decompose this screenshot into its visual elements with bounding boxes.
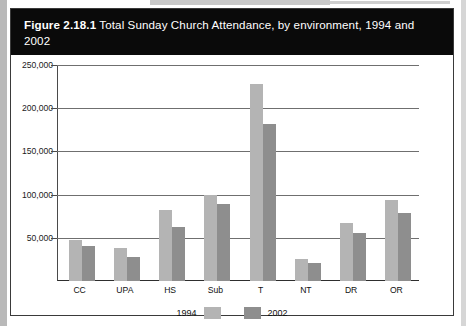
bar-group-upa xyxy=(110,65,140,281)
bar-t-1994 xyxy=(250,84,263,281)
bar-dr-2002 xyxy=(353,233,366,281)
bar-group-cc xyxy=(65,65,95,281)
bar-upa-1994 xyxy=(114,248,127,281)
scan-artifact-top xyxy=(150,0,330,5)
bar-upa-2002 xyxy=(127,257,140,281)
chart-panel: 50,000100,000150,000200,000250,000 CCUPA… xyxy=(11,55,453,315)
x-tick-label-sub: Sub xyxy=(208,285,223,295)
x-tick-label-t: T xyxy=(258,285,263,295)
bar-series-container xyxy=(57,65,419,281)
y-tick-label-200000: 200,000 xyxy=(22,103,53,113)
figure-title-band: Figure 2.18.1 Total Sunday Church Attend… xyxy=(11,9,453,55)
scanned-page: Figure 2.18.1 Total Sunday Church Attend… xyxy=(0,0,466,326)
y-tick-label-100000: 100,000 xyxy=(22,190,53,200)
plot-area xyxy=(57,65,419,281)
bar-group-dr xyxy=(336,65,366,281)
legend-swatch-2002 xyxy=(244,307,261,319)
bar-cc-1994 xyxy=(69,240,82,281)
bar-cc-2002 xyxy=(82,246,95,281)
bar-group-t xyxy=(246,65,276,281)
scan-artifact-top-secondary xyxy=(330,1,450,4)
figure-title: Figure 2.18.1 Total Sunday Church Attend… xyxy=(24,17,436,48)
bar-nt-2002 xyxy=(308,263,321,281)
x-tick-label-cc: CC xyxy=(73,285,85,295)
bar-sub-1994 xyxy=(204,195,217,281)
page-edge-right-shadow xyxy=(461,0,466,326)
y-tick-label-50000: 50,000 xyxy=(27,233,53,243)
figure-number: Figure 2.18.1 xyxy=(24,18,96,31)
bar-group-or xyxy=(381,65,411,281)
bar-group-nt xyxy=(291,65,321,281)
page-edge-left-shadow xyxy=(0,0,7,326)
bar-t-2002 xyxy=(263,124,276,281)
x-axis-labels: CCUPAHSSubTNTDROR xyxy=(57,285,419,301)
legend-label-2002: 2002 xyxy=(268,308,288,318)
y-axis-labels: 50,000100,000150,000200,000250,000 xyxy=(11,65,53,281)
figure-container: Figure 2.18.1 Total Sunday Church Attend… xyxy=(10,8,454,316)
x-tick-label-or: OR xyxy=(390,285,403,295)
bar-hs-1994 xyxy=(159,210,172,281)
bar-hs-2002 xyxy=(172,227,185,281)
bar-group-sub xyxy=(200,65,230,281)
x-tick-label-dr: DR xyxy=(345,285,357,295)
bar-sub-2002 xyxy=(217,204,230,281)
chart-legend: 1994 2002 xyxy=(11,303,453,323)
bar-group-hs xyxy=(155,65,185,281)
x-tick-label-hs: HS xyxy=(164,285,176,295)
x-tick-label-upa: UPA xyxy=(116,285,133,295)
y-tick-label-150000: 150,000 xyxy=(22,146,53,156)
bar-dr-1994 xyxy=(340,223,353,281)
legend-swatch-1994 xyxy=(204,307,221,319)
bar-or-1994 xyxy=(385,200,398,281)
bar-or-2002 xyxy=(398,213,411,281)
legend-label-1994: 1994 xyxy=(176,308,196,318)
bar-nt-1994 xyxy=(295,259,308,281)
y-tick-label-250000: 250,000 xyxy=(22,60,53,70)
x-tick-label-nt: NT xyxy=(300,285,311,295)
